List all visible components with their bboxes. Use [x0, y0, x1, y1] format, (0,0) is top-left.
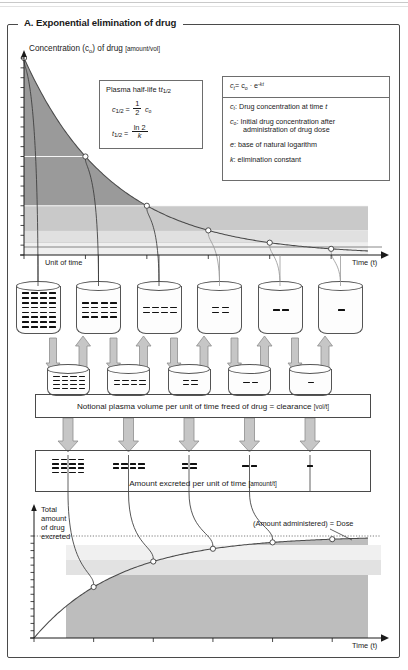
eq1-denominator: 2 [133, 108, 141, 117]
eq2-lhs-sub: 1/2 [114, 131, 122, 139]
def-k-text: : elimination constant [234, 155, 302, 164]
eq2-equals: = [124, 128, 128, 137]
eq1-rhs-sub: o [149, 108, 152, 114]
formula-legend-box: ct= co · e-kt ct: Drug concentration at … [222, 76, 390, 181]
eq2-fraction: ln 2 k [132, 124, 148, 140]
eq2-denominator: k [132, 131, 148, 140]
half-life-heading-sub: 1/2 [163, 87, 171, 94]
half-life-heading-text: Plasma half-life t [106, 85, 161, 94]
eq1-fraction: 1 2 [133, 100, 141, 116]
def-ct-text: : Drug concentration at time [235, 102, 325, 111]
main-eq-equals: = c [235, 81, 245, 90]
diagram-page: A. Exponential elimination of drug [0, 0, 408, 670]
eq1-lhs-sub: 1/2 [116, 107, 124, 115]
y-label-line-2: amount [41, 514, 70, 523]
dose-asymptote-label: (Amount administered) = Dose [253, 519, 353, 528]
half-life-heading: Plasma half-life tt1/2 [100, 81, 202, 96]
half-life-equation-1: c1/2 = 1 2 co [100, 96, 202, 116]
eq1-equals: = [126, 105, 130, 114]
definition-c0: co: Initial drug concentration after adm… [223, 112, 389, 136]
definition-ct: ct: Drug concentration at time t [223, 98, 389, 112]
definition-e: e: base of natural logarithm [223, 135, 389, 150]
def-e-text: : base of natural logarithm [234, 140, 317, 149]
main-equation: ct= co · e-kt [223, 77, 389, 95]
plasma-half-life-box: Plasma half-life tt1/2 c1/2 = 1 2 co t1/… [99, 80, 203, 149]
def-c0-text: : Initial drug concentration after [236, 117, 335, 126]
main-eq-mid: · e [248, 81, 258, 90]
def-c0-text-line2: administration of drug dose [230, 126, 383, 135]
half-life-equation-2: t1/2 = ln 2 k [100, 117, 202, 140]
y-label-line-1: Total [41, 505, 70, 514]
definition-k: k: elimination constant [223, 150, 389, 165]
eq1-numerator: 1 [133, 100, 141, 108]
y-label-line-3: of drug [41, 523, 70, 532]
page-title: A. Exponential elimination of drug [18, 17, 183, 28]
def-ct-tail: t [325, 102, 327, 111]
bottom-chart-y-axis-label: Total amount of drug excreted [41, 505, 70, 541]
main-eq-exponent: -kt [258, 81, 264, 87]
bottom-chart-x-axis-label: Time (t) [352, 641, 377, 650]
y-label-line-4: excreted [41, 532, 70, 541]
eq2-numerator: ln 2 [132, 124, 148, 132]
